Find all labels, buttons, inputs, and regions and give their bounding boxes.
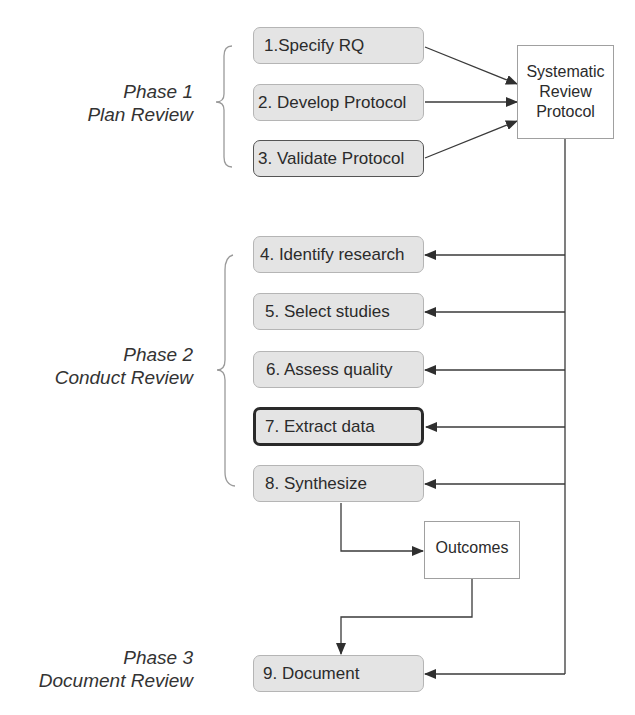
phase-1-title: Phase 1 <box>87 80 193 103</box>
step-label: 2. Develop Protocol <box>254 93 406 113</box>
phase-1-subtitle: Plan Review <box>87 103 193 126</box>
step-label: 6. Assess quality <box>254 360 393 380</box>
step-document: 9. Document <box>253 655 424 692</box>
systematic-review-diagram: Phase 1 Plan Review Phase 2 Conduct Revi… <box>0 0 635 715</box>
step-assess-quality: 6. Assess quality <box>253 351 424 388</box>
phase-1-label: Phase 1 Plan Review <box>87 80 193 126</box>
protocol-line2: Review <box>526 82 604 102</box>
step-extract-data: 7. Extract data <box>253 407 424 446</box>
phase-3-subtitle: Document Review <box>39 669 193 692</box>
systematic-review-protocol-document: Systematic Review Protocol <box>517 45 614 139</box>
step-label: 3. Validate Protocol <box>254 149 404 169</box>
step-label: 4. Identify research <box>254 245 405 265</box>
step-identify-research: 4. Identify research <box>253 236 424 273</box>
outcomes-document: Outcomes <box>424 521 520 579</box>
step-select-studies: 5. Select studies <box>253 293 424 330</box>
step-validate-protocol: 3. Validate Protocol <box>253 140 424 177</box>
protocol-line1: Systematic <box>526 62 604 82</box>
step-label: 1.Specify RQ <box>254 36 364 56</box>
step-label: 5. Select studies <box>254 302 390 322</box>
step-specify-rq: 1.Specify RQ <box>253 27 424 64</box>
outcomes-label: Outcomes <box>436 538 509 558</box>
phase-2-label: Phase 2 Conduct Review <box>55 343 193 389</box>
step-label: 9. Document <box>254 664 359 684</box>
phase2-brace <box>217 255 235 486</box>
phase-3-label: Phase 3 Document Review <box>39 646 193 692</box>
step-label: 8. Synthesize <box>254 474 367 494</box>
phase-3-title: Phase 3 <box>39 646 193 669</box>
phase-2-subtitle: Conduct Review <box>55 366 193 389</box>
step-synthesize: 8. Synthesize <box>253 465 424 502</box>
protocol-line3: Protocol <box>526 102 604 122</box>
phase1-brace <box>216 46 232 167</box>
step-label: 7. Extract data <box>256 417 375 437</box>
phase-2-title: Phase 2 <box>55 343 193 366</box>
step-develop-protocol: 2. Develop Protocol <box>253 84 424 121</box>
